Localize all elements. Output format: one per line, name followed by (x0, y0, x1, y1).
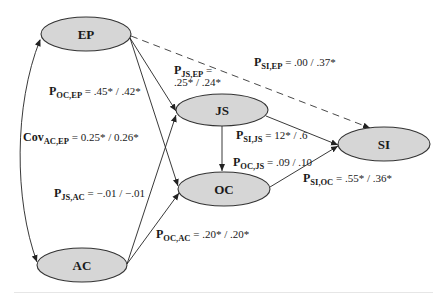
label-value: = (203, 64, 212, 76)
node-ep: EP (41, 17, 131, 51)
label-value: = .09 / .10 (264, 156, 312, 168)
node-js: JS (176, 94, 268, 126)
node-si: SI (338, 127, 430, 161)
node-ep-label: EP (78, 27, 95, 42)
label-p-oc-ac: POC,AC = .20* / .20* (156, 228, 249, 240)
label-value: = 12* / .6 (262, 129, 307, 141)
label-p-si-oc: PSI,OC = .55* / .36* (303, 172, 392, 184)
label-p-js-ac: PJS,AC = −.01 / −.01 (54, 187, 145, 199)
label-value: = 0.25* / 0.26* (69, 131, 139, 143)
label-p-oc-ep: POC,EP = .45* / .42* (49, 85, 141, 97)
edge-ep-to-js (130, 38, 176, 111)
label-p-js-ep: PJS,EP = .25* / .24* (174, 64, 221, 88)
edge-ep-ac-covariance (20, 40, 40, 262)
label-value: = .00 / .37* (282, 56, 335, 68)
node-ac: AC (37, 248, 127, 282)
label-subscript: SI,JS (243, 134, 262, 144)
label-value: = .20* / .20* (191, 228, 250, 240)
label-value: = .45* / .42* (82, 85, 141, 97)
label-value: = −.01 / −.01 (85, 187, 145, 199)
node-ac-label: AC (73, 258, 92, 273)
label-subscript: SI,EP (261, 61, 282, 71)
label-p-si-ep: PSI,EP = .00 / .37* (254, 56, 336, 68)
label-p-oc-js: POC,JS = .09 / .10 (233, 156, 312, 168)
label-value: = .55* / .36* (333, 172, 392, 184)
bottom-divider (14, 292, 433, 293)
path-diagram: EP AC JS OC SI (0, 0, 447, 294)
label-symbol: Cov (23, 130, 44, 144)
label-subscript: OC,JS (240, 161, 264, 171)
label-subscript: JS,AC (61, 192, 84, 202)
label-subscript: OC,EP (56, 90, 82, 100)
node-si-label: SI (378, 137, 390, 152)
node-js-label: JS (215, 103, 229, 118)
label-subscript: SI,OC (310, 177, 333, 187)
label-subscript: AC,EP (44, 136, 69, 146)
label-subscript: OC,AC (163, 233, 190, 243)
node-oc: OC (178, 172, 270, 206)
label-p-si-js: PSI,JS = 12* / .6 (236, 129, 308, 141)
edge-ep-to-oc (130, 38, 178, 186)
label-value-line2: .25* / .24* (174, 76, 221, 88)
label-cov-ac-ep: CovAC,EP = 0.25* / 0.26* (23, 131, 139, 143)
node-oc-label: OC (214, 182, 234, 197)
